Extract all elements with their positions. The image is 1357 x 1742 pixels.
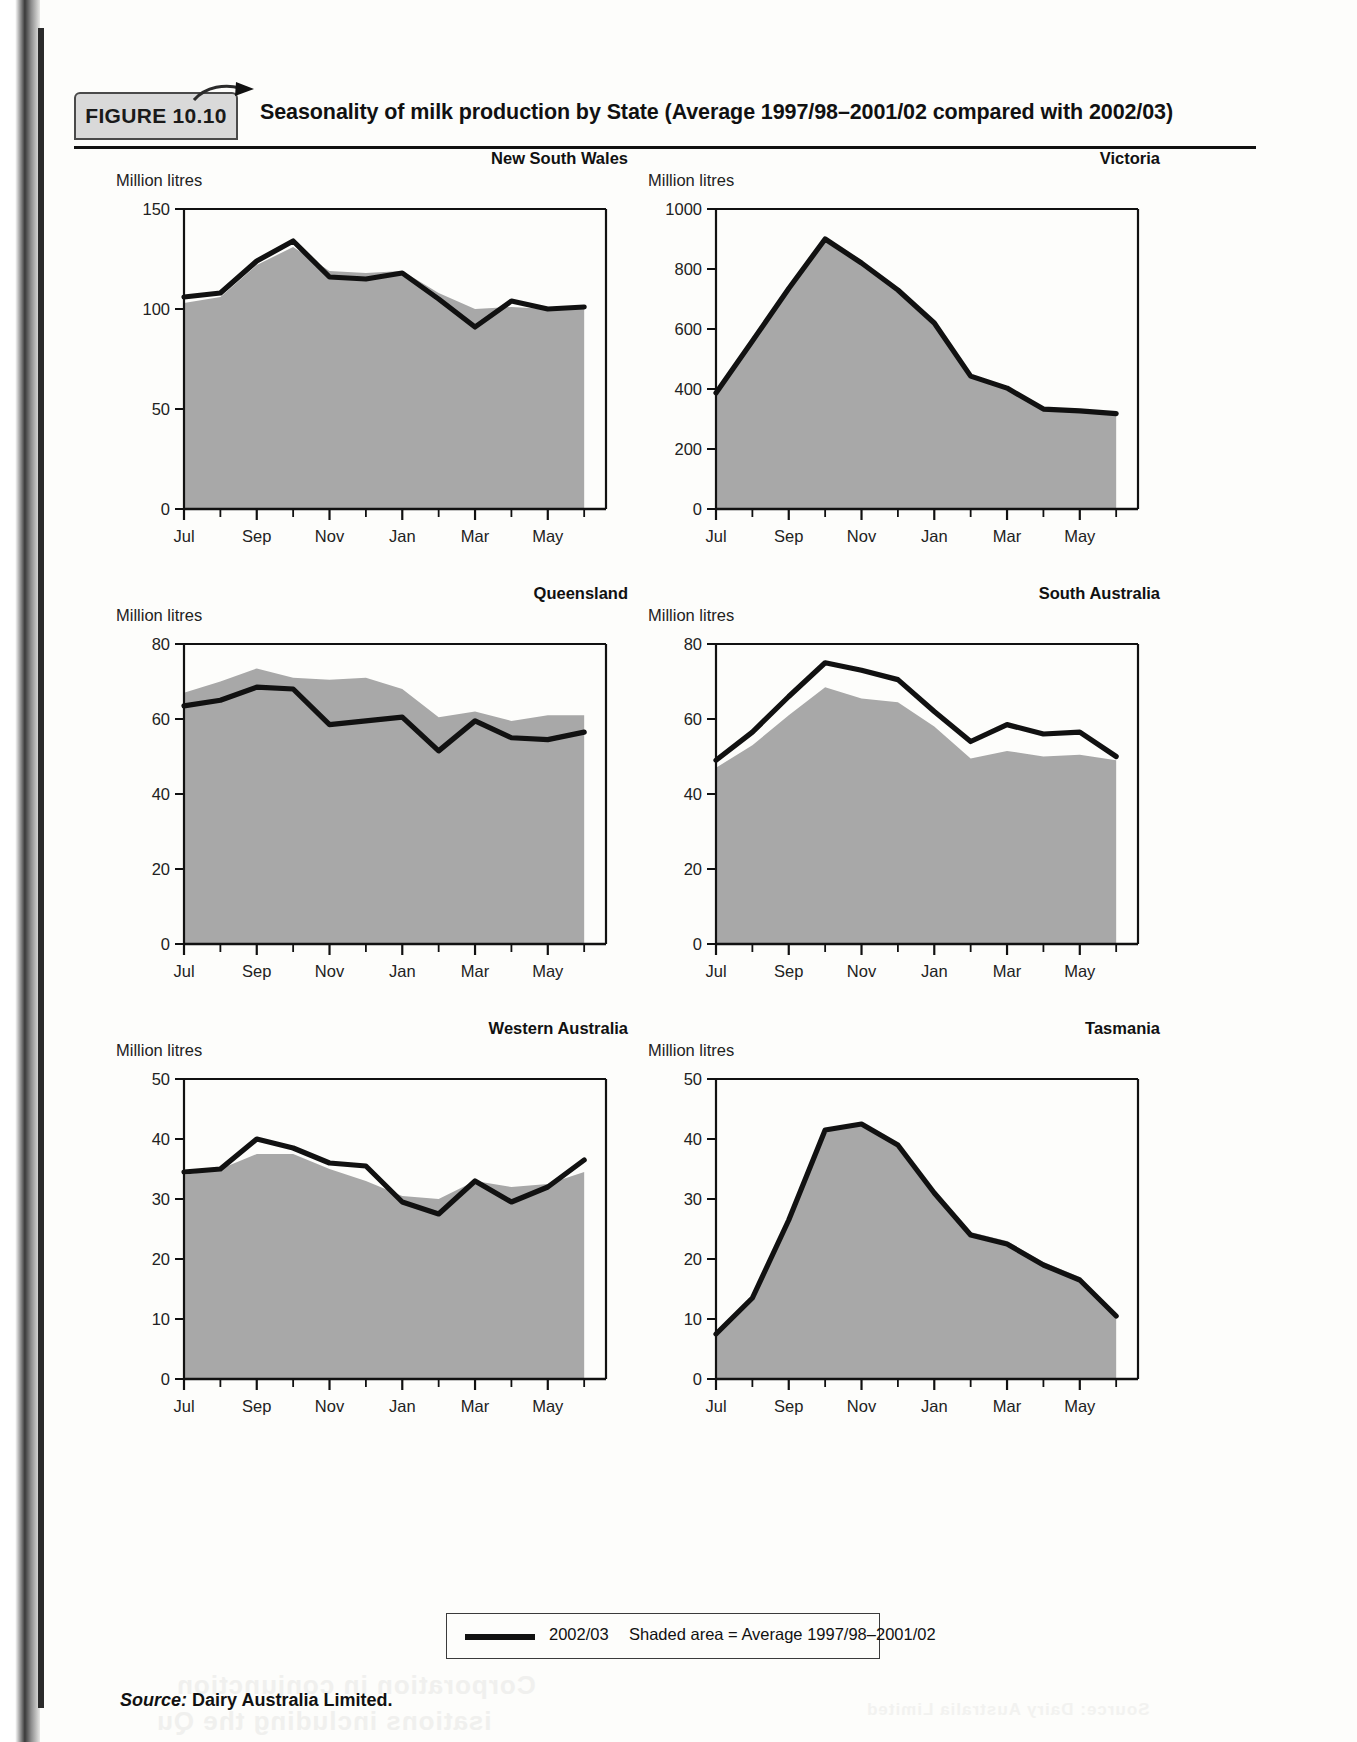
y-tick-label: 60 xyxy=(684,710,702,728)
y-tick-label: 20 xyxy=(684,860,702,878)
chart-legend: 2002/03 Shaded area = Average 1997/98–20… xyxy=(446,1613,880,1659)
arrow-icon xyxy=(192,82,256,104)
book-spine-line xyxy=(38,28,44,1708)
book-gutter-shadow xyxy=(0,0,40,1742)
x-tick-label: Sep xyxy=(774,1397,803,1415)
y-tick-label: 600 xyxy=(674,320,702,338)
plot-area: 020406080JulSepNovJanMarMay xyxy=(648,630,1160,1000)
x-tick-label: Jul xyxy=(173,1397,194,1415)
x-tick-label: May xyxy=(1064,527,1096,545)
x-tick-label: Mar xyxy=(461,962,490,980)
shaded-area-average xyxy=(184,1154,584,1379)
y-tick-label: 1000 xyxy=(665,200,702,218)
panel-title: Tasmania xyxy=(1085,1019,1160,1038)
x-tick-label: Nov xyxy=(315,1397,345,1415)
source-text: Dairy Australia Limited. xyxy=(192,1690,392,1710)
shaded-area-average xyxy=(716,687,1116,944)
x-tick-label: May xyxy=(532,1397,564,1415)
y-axis-title: Million litres xyxy=(116,606,202,625)
y-tick-label: 60 xyxy=(152,710,170,728)
source-prefix: Source: xyxy=(120,1690,187,1710)
y-tick-label: 50 xyxy=(152,1070,170,1088)
panel-title: Western Australia xyxy=(489,1019,628,1038)
y-tick-label: 20 xyxy=(684,1250,702,1268)
x-tick-label: Nov xyxy=(847,1397,877,1415)
y-tick-label: 200 xyxy=(674,440,702,458)
y-tick-label: 20 xyxy=(152,1250,170,1268)
x-tick-label: Nov xyxy=(847,962,877,980)
chart-panel-victoria: Million litres Victoria 0200400600800100… xyxy=(648,155,1160,555)
y-axis-title: Million litres xyxy=(648,171,734,190)
chart-panel-western-australia: Million litres Western Australia 0102030… xyxy=(116,1025,628,1425)
shaded-area-average xyxy=(184,247,584,509)
x-tick-label: Jul xyxy=(173,527,194,545)
x-tick-label: Jul xyxy=(705,1397,726,1415)
x-tick-label: May xyxy=(1064,1397,1096,1415)
y-tick-label: 80 xyxy=(684,635,702,653)
y-tick-label: 10 xyxy=(152,1310,170,1328)
y-tick-label: 400 xyxy=(674,380,702,398)
x-tick-label: May xyxy=(1064,962,1096,980)
legend-shaded-label: Shaded area = Average 1997/98–2001/02 xyxy=(629,1625,936,1644)
x-tick-label: Jan xyxy=(921,527,948,545)
plot-area: 050100150JulSepNovJanMarMay xyxy=(116,195,628,565)
x-tick-label: Jan xyxy=(389,962,416,980)
y-tick-label: 50 xyxy=(152,400,170,418)
x-tick-label: Mar xyxy=(461,1397,490,1415)
plot-area: 02004006008001000JulSepNovJanMarMay xyxy=(648,195,1160,565)
x-tick-label: Jul xyxy=(173,962,194,980)
shaded-area-average xyxy=(716,239,1116,509)
source-note: Source: Dairy Australia Limited. xyxy=(120,1690,392,1711)
y-tick-label: 40 xyxy=(684,1130,702,1148)
x-tick-label: May xyxy=(532,527,564,545)
x-tick-label: Sep xyxy=(242,962,271,980)
panel-title: New South Wales xyxy=(491,149,628,168)
figure-header: FIGURE 10.10 Seasonality of milk product… xyxy=(74,78,1254,146)
x-tick-label: May xyxy=(532,962,564,980)
y-tick-label: 0 xyxy=(693,935,702,953)
x-tick-label: Jan xyxy=(921,1397,948,1415)
y-tick-label: 40 xyxy=(152,1130,170,1148)
y-tick-label: 30 xyxy=(152,1190,170,1208)
x-tick-label: Nov xyxy=(315,527,345,545)
shaded-area-average xyxy=(184,668,584,944)
panel-title: South Australia xyxy=(1039,584,1160,603)
x-tick-label: Nov xyxy=(315,962,345,980)
page-canvas: Corporation in conjunction isations incl… xyxy=(0,0,1357,1742)
y-tick-label: 0 xyxy=(161,1370,170,1388)
x-tick-label: Jan xyxy=(921,962,948,980)
legend-line-swatch xyxy=(465,1634,535,1640)
y-tick-label: 40 xyxy=(684,785,702,803)
x-tick-label: Nov xyxy=(847,527,877,545)
chart-panel-queensland: Million litres Queensland 020406080JulSe… xyxy=(116,590,628,990)
header-rule xyxy=(74,146,1256,149)
x-tick-label: Jul xyxy=(705,962,726,980)
x-tick-label: Mar xyxy=(993,962,1022,980)
x-tick-label: Jan xyxy=(389,1397,416,1415)
y-tick-label: 50 xyxy=(684,1070,702,1088)
chart-panel-tasmania: Million litres Tasmania 01020304050JulSe… xyxy=(648,1025,1160,1425)
x-tick-label: Sep xyxy=(774,527,803,545)
x-tick-label: Jul xyxy=(705,527,726,545)
chart-panel-new-south-wales: Million litres New South Wales 050100150… xyxy=(116,155,628,555)
x-tick-label: Sep xyxy=(774,962,803,980)
y-axis-title: Million litres xyxy=(116,1041,202,1060)
plot-area: 01020304050JulSepNovJanMarMay xyxy=(116,1065,628,1435)
x-tick-label: Mar xyxy=(993,1397,1022,1415)
y-tick-label: 0 xyxy=(693,1370,702,1388)
x-tick-label: Jan xyxy=(389,527,416,545)
y-tick-label: 40 xyxy=(152,785,170,803)
y-tick-label: 10 xyxy=(684,1310,702,1328)
x-tick-label: Mar xyxy=(461,527,490,545)
x-tick-label: Sep xyxy=(242,1397,271,1415)
y-tick-label: 30 xyxy=(684,1190,702,1208)
panel-title: Queensland xyxy=(534,584,628,603)
y-tick-label: 100 xyxy=(142,300,170,318)
y-tick-label: 0 xyxy=(161,500,170,518)
plot-area: 01020304050JulSepNovJanMarMay xyxy=(648,1065,1160,1435)
y-tick-label: 20 xyxy=(152,860,170,878)
figure-title: Seasonality of milk production by State … xyxy=(260,100,1260,125)
plot-area: 020406080JulSepNovJanMarMay xyxy=(116,630,628,1000)
x-tick-label: Mar xyxy=(993,527,1022,545)
y-tick-label: 150 xyxy=(142,200,170,218)
